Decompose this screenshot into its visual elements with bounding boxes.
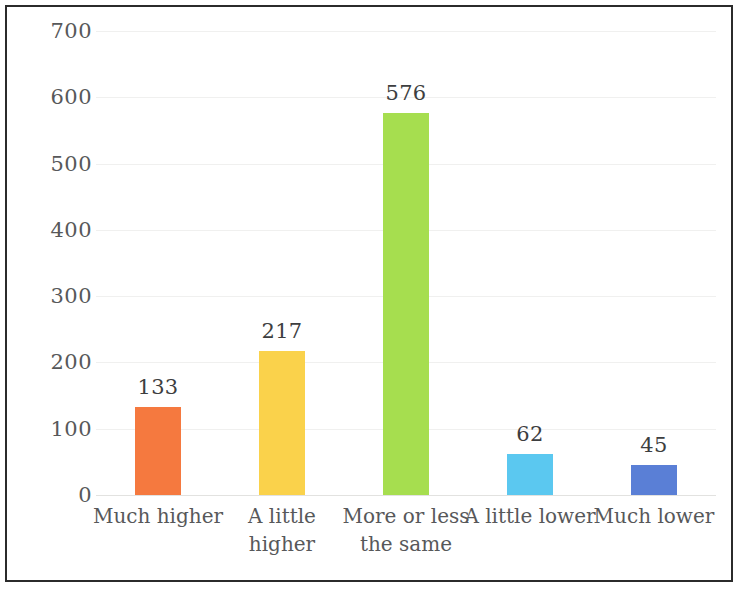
y-tick-label-600: 600 — [8, 85, 92, 109]
y-tick-label-200: 200 — [8, 350, 92, 374]
x-tick-label: Much lower — [586, 502, 722, 530]
bar-value-label: 62 — [516, 422, 543, 446]
bar-value-label: 45 — [640, 433, 667, 457]
bar[interactable] — [507, 454, 553, 495]
y-tick-label-100: 100 — [8, 417, 92, 441]
bar-value-label: 133 — [138, 375, 179, 399]
x-tick-label: Much higher — [90, 502, 226, 530]
bar-group[interactable]: 62 — [507, 31, 553, 495]
bar[interactable] — [135, 407, 181, 495]
bar[interactable] — [631, 465, 677, 495]
x-axis-tick-labels: Much higherA little higherMore or less t… — [96, 502, 716, 582]
bar[interactable] — [383, 113, 429, 495]
y-tick-label-700: 700 — [8, 19, 92, 43]
bar-group[interactable]: 45 — [631, 31, 677, 495]
bar-value-label: 217 — [262, 319, 303, 343]
x-axis-baseline — [96, 495, 716, 496]
bar-group[interactable]: 576 — [383, 31, 429, 495]
bar-value-label: 576 — [386, 81, 427, 105]
plot-area: 1332175766245 — [96, 31, 716, 495]
y-tick-label-0: 0 — [8, 483, 92, 507]
bar-group[interactable]: 133 — [135, 31, 181, 495]
y-axis-tick-labels: 7006005004003002001000 — [0, 0, 92, 589]
y-tick-label-400: 400 — [8, 218, 92, 242]
x-tick-label: A little higher — [214, 502, 350, 558]
x-tick-label: A little lower — [462, 502, 598, 530]
bar-chart-figure: 7006005004003002001000 1332175766245 Muc… — [0, 0, 737, 589]
y-tick-label-500: 500 — [8, 152, 92, 176]
y-tick-label-300: 300 — [8, 284, 92, 308]
x-tick-label: More or less the same — [338, 502, 474, 558]
bar[interactable] — [259, 351, 305, 495]
bar-group[interactable]: 217 — [259, 31, 305, 495]
